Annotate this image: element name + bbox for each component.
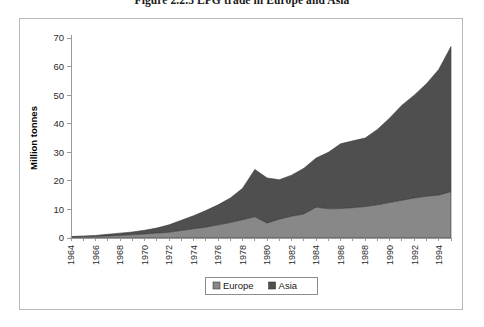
y-axis-title: Million tonnes <box>28 106 39 170</box>
chart-legend: EuropeAsia <box>205 277 317 294</box>
x-tick-label: 1982 <box>287 245 297 265</box>
lpg-trade-area-chart: 010203040506070 196419661968197019721974… <box>20 19 462 309</box>
x-tick-label: 1968 <box>115 245 125 265</box>
y-tick-label: 30 <box>53 147 64 158</box>
chart-frame: 010203040506070 196419661968197019721974… <box>19 18 463 310</box>
y-tick-label: 50 <box>53 90 64 101</box>
legend-swatch-europe <box>213 282 220 289</box>
y-tick-labels: 010203040506070 <box>53 32 64 243</box>
x-tick-label: 1976 <box>213 245 223 265</box>
x-tick-label: 1970 <box>140 245 150 265</box>
x-tick-label: 1964 <box>66 245 76 265</box>
y-tick-label: 20 <box>53 175 64 186</box>
x-tick-label: 1980 <box>262 245 272 265</box>
x-tick-label: 1988 <box>360 245 370 265</box>
y-tick-label: 70 <box>53 32 64 43</box>
x-tick-label: 1994 <box>434 245 444 265</box>
x-tick-label: 1986 <box>336 245 346 265</box>
legend-label-europe: Europe <box>223 280 254 291</box>
legend-box <box>205 277 317 294</box>
y-tick-label: 40 <box>53 118 64 129</box>
x-tick-label: 1984 <box>311 245 321 265</box>
x-tick-label: 1974 <box>189 245 199 265</box>
x-tick-label: 1966 <box>91 245 101 265</box>
x-tick-label: 1992 <box>410 245 420 265</box>
plot-areas <box>71 47 451 238</box>
y-tick-label: 10 <box>53 204 64 215</box>
y-tick-label: 0 <box>59 232 64 243</box>
x-tick-label: 1972 <box>164 245 174 265</box>
legend-label-asia: Asia <box>279 280 298 291</box>
legend-swatch-asia <box>269 282 276 289</box>
figure-title: Figure 2.2.3 LPG trade in Europe and Asi… <box>0 0 484 6</box>
x-tick-label: 1990 <box>385 245 395 265</box>
x-tick-label: 1978 <box>238 245 248 265</box>
x-tick-labels: 1964196619681970197219741976197819801982… <box>66 245 444 265</box>
y-tick-label: 60 <box>53 61 64 72</box>
